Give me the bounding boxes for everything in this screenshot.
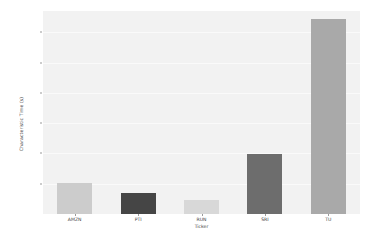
y-tick-mark [40, 183, 42, 184]
x-tick-mark [138, 214, 139, 216]
y-tick-mark [40, 92, 42, 93]
bar-chart-figure: Characteristic Time (s) 2004006008001000… [0, 0, 369, 248]
y-tick-mark [40, 32, 42, 33]
x-axis-title: Ticker [43, 224, 360, 229]
bar-amzn [57, 183, 92, 214]
y-tick-mark [40, 153, 42, 154]
x-tick-label: SRI [261, 217, 268, 222]
x-tick-mark [265, 214, 266, 216]
x-tick-label: PTI [135, 217, 142, 222]
x-tick-mark [202, 214, 203, 216]
plot-area [43, 11, 360, 214]
y-tick-mark [40, 123, 42, 124]
y-tick-mark [40, 62, 42, 63]
x-tick-mark [75, 214, 76, 216]
x-tick-mark [328, 214, 329, 216]
bar-run [184, 200, 219, 214]
x-tick-label: RUN [197, 217, 207, 222]
x-tick-label: TU [325, 217, 331, 222]
x-tick-label: AMZN [68, 217, 82, 222]
bar-tu [311, 19, 346, 214]
bar-pti [121, 193, 156, 214]
bar-sri [247, 154, 282, 214]
